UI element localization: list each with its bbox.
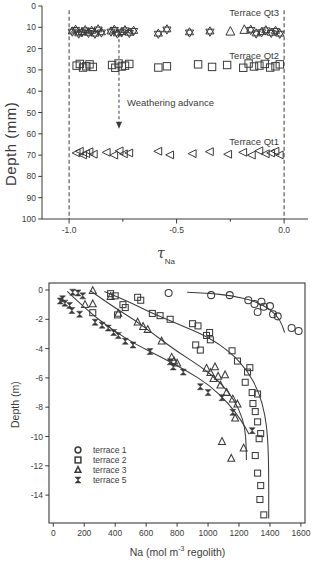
plot-frame xyxy=(49,283,305,523)
svg-text:80: 80 xyxy=(27,171,37,181)
svg-text:400: 400 xyxy=(108,528,122,538)
svg-text:70: 70 xyxy=(27,150,37,160)
svg-text:200: 200 xyxy=(77,528,91,538)
figure: 0102030405060708090100-1.0-0.50.0 0-2-4-… xyxy=(0,0,314,572)
series-terrace-3 xyxy=(82,287,248,462)
svg-text:20: 20 xyxy=(27,44,37,54)
series-terrace-5 xyxy=(57,289,255,433)
terrace-qt3-label: Terrace Qt3 xyxy=(183,7,279,18)
svg-text:-2: -2 xyxy=(35,314,43,324)
series-terrace-qt3-open-triangles xyxy=(226,25,249,35)
legend-item-terrace-5: terrace 5 xyxy=(72,474,127,486)
legend-label: terrace 5 xyxy=(93,475,127,485)
bottom-plot-area: 0-2-4-6-8-10-12-140200400600800100012001… xyxy=(31,283,311,538)
terrace-qt1-label: Terrace Qt1 xyxy=(183,136,279,147)
svg-text:0: 0 xyxy=(51,528,56,538)
bottom-y-axis-title: Depth (m) xyxy=(9,381,21,428)
bottom-chart: 0-2-4-6-8-10-12-140200400600800100012001… xyxy=(0,272,314,572)
svg-text:-10: -10 xyxy=(31,432,44,442)
series-terrace-qt2 xyxy=(73,60,284,72)
svg-text:50: 50 xyxy=(27,108,37,118)
series-terrace-qt1 xyxy=(72,147,283,159)
svg-text:90: 90 xyxy=(27,193,37,203)
svg-text:600: 600 xyxy=(139,528,153,538)
svg-text:0: 0 xyxy=(38,285,43,295)
svg-text:1000: 1000 xyxy=(199,528,218,538)
top-y-axis-title: Depth (mm) xyxy=(2,102,19,186)
na-label-pre: Na (mol m xyxy=(130,546,178,558)
arrowhead-icon xyxy=(116,122,122,129)
svg-text:-4: -4 xyxy=(35,344,43,354)
svg-text:30: 30 xyxy=(27,65,37,75)
svg-text:1200: 1200 xyxy=(230,528,249,538)
svg-text:-1.0: -1.0 xyxy=(62,225,77,235)
svg-text:-6: -6 xyxy=(35,373,43,383)
svg-text:100: 100 xyxy=(22,214,36,224)
terrace-qt2-label: Terrace Qt2 xyxy=(183,50,279,61)
svg-text:0: 0 xyxy=(31,1,36,11)
svg-text:-0.5: -0.5 xyxy=(169,225,184,235)
tau-symbol: τ xyxy=(157,245,165,261)
top-plot-area: 0102030405060708090100-1.0-0.50.0 xyxy=(22,1,308,235)
series-terrace-qt3 xyxy=(68,25,284,39)
bottom-x-axis-title: Na (mol m-3 regolith) xyxy=(90,545,265,558)
top-x-axis-title: τNa xyxy=(157,245,175,264)
svg-text:0.0: 0.0 xyxy=(278,225,290,235)
hourglass-marker-icon xyxy=(72,474,84,486)
svg-text:800: 800 xyxy=(170,528,184,538)
svg-text:10: 10 xyxy=(27,22,37,32)
svg-text:40: 40 xyxy=(27,86,37,96)
svg-text:60: 60 xyxy=(27,129,37,139)
svg-text:-12: -12 xyxy=(31,461,44,471)
na-label-post: regolith) xyxy=(184,546,225,558)
tau-subscript: Na xyxy=(165,257,175,266)
svg-text:-14: -14 xyxy=(31,490,44,500)
svg-text:1400: 1400 xyxy=(261,528,280,538)
fit-curve-terrace-2 xyxy=(104,291,268,518)
svg-text:1600: 1600 xyxy=(291,528,310,538)
svg-text:-8: -8 xyxy=(35,402,43,412)
weathering-advance-label: Weathering advance xyxy=(127,97,214,108)
